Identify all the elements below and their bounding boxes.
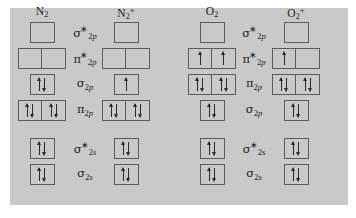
electron-arrow-down <box>308 77 313 92</box>
electron-arrows <box>121 167 131 182</box>
orbital-boxes-o2plus-sigma-2s <box>254 164 338 185</box>
orbital-box <box>295 74 320 95</box>
orbital-boxes-n2plus-sigma-star-2p <box>84 22 168 43</box>
mo-row-sigma-star-2p: σ∗2p <box>0 22 170 44</box>
orbital-boxes-n2plus-sigma-2s <box>84 164 168 185</box>
electron-arrows <box>282 51 287 66</box>
electron-arrows <box>37 141 47 156</box>
orbital-box <box>284 100 309 121</box>
orbital-box <box>114 164 139 185</box>
orbital-box <box>272 48 297 69</box>
electron-arrow-down <box>42 77 47 92</box>
species-charge-superscript: + <box>300 5 305 15</box>
orbital-box <box>200 164 225 185</box>
species-label-o2: O2 <box>170 5 254 19</box>
electron-arrow-up <box>221 51 226 66</box>
orbital-boxes-o2-sigma-2p <box>170 100 254 121</box>
electron-arrows <box>221 51 226 66</box>
electron-arrows <box>207 167 217 182</box>
orbital-box <box>41 48 66 69</box>
orbital-box <box>102 48 127 69</box>
electron-arrow-up <box>282 51 287 66</box>
mo-group-right: O2O2+σ∗2pπ∗2pπ2pσ2pσ∗2sσ2s <box>170 0 338 197</box>
electron-arrow-down <box>296 167 301 182</box>
orbital-box <box>30 22 55 43</box>
mo-row-sigma-star-2s: σ∗2s <box>0 138 170 160</box>
orbital-boxes-n2-pi-star-2p <box>0 48 84 69</box>
electron-arrows <box>37 167 47 182</box>
electron-arrow-down <box>42 141 47 156</box>
orbital-box <box>114 22 139 43</box>
electron-arrow-up <box>124 77 129 92</box>
electron-arrow-down <box>126 167 131 182</box>
orbital-boxes-o2-pi-2p <box>170 74 254 95</box>
electron-arrows <box>291 167 301 182</box>
mo-row-sigma-star-2p: σ∗2p <box>170 22 338 44</box>
species-label-n2: N2 <box>0 5 84 19</box>
orbital-box <box>125 48 150 69</box>
orbital-boxes-o2plus-pi-star-2p <box>254 48 338 69</box>
electron-arrow-down <box>224 77 229 92</box>
orbital-box <box>211 48 236 69</box>
mo-group-left: N2N2+σ∗2pπ∗2pσ2pπ2pσ∗2sσ2s <box>0 0 170 197</box>
electron-arrow-up <box>198 51 203 66</box>
orbital-boxes-o2-sigma-star-2p <box>170 22 254 43</box>
orbital-boxes-n2-sigma-star-2p <box>0 22 84 43</box>
mo-row-sigma-star-2s: σ∗2s <box>170 138 338 160</box>
electron-arrow-down <box>212 167 217 182</box>
orbital-boxes-o2plus-sigma-2p <box>254 100 338 121</box>
orbital-boxes-o2-sigma-2s <box>170 164 254 185</box>
mo-diagram-figure: N2N2+σ∗2pπ∗2pσ2pπ2pσ∗2sσ2sO2O2+σ∗2pπ∗2pπ… <box>0 0 356 218</box>
mo-row-sigma-2p: σ2p <box>170 100 338 122</box>
electron-arrow-down <box>54 103 59 118</box>
orbital-boxes-n2plus-pi-2p <box>84 100 168 121</box>
orbital-box <box>18 48 43 69</box>
electron-arrows <box>109 103 119 118</box>
orbital-box <box>114 74 139 95</box>
electron-arrows <box>207 103 217 118</box>
orbital-boxes-n2plus-sigma-star-2s <box>84 138 168 159</box>
electron-arrows <box>133 103 143 118</box>
orbital-box <box>200 138 225 159</box>
electron-arrow-down <box>296 103 301 118</box>
electron-arrows <box>195 77 205 92</box>
orbital-box <box>30 164 55 185</box>
orbital-boxes-o2plus-pi-2p <box>254 74 338 95</box>
orbital-box <box>188 48 213 69</box>
orbital-box <box>114 138 139 159</box>
orbital-box <box>272 74 297 95</box>
orbital-box <box>200 22 225 43</box>
species-label-o2plus: O2+ <box>254 5 338 21</box>
orbital-box <box>284 138 309 159</box>
electron-arrow-down <box>42 167 47 182</box>
mo-row-pi-2p: π2p <box>170 74 338 96</box>
electron-arrows <box>121 141 131 156</box>
orbital-box <box>30 138 55 159</box>
electron-arrow-down <box>138 103 143 118</box>
orbital-box <box>125 100 150 121</box>
electron-arrow-down <box>200 77 205 92</box>
species-element-symbol: N <box>36 5 45 17</box>
orbital-box <box>284 164 309 185</box>
orbital-box <box>284 22 309 43</box>
electron-arrows <box>198 51 203 66</box>
orbital-boxes-n2plus-pi-star-2p <box>84 48 168 69</box>
species-charge-superscript: + <box>130 5 135 15</box>
orbital-box <box>211 74 236 95</box>
electron-arrows <box>219 77 229 92</box>
electron-arrow-down <box>212 103 217 118</box>
species-element-symbol: N <box>117 7 126 19</box>
electron-arrows <box>279 77 289 92</box>
mo-row-sigma-2s: σ2s <box>170 164 338 186</box>
orbital-box <box>30 74 55 95</box>
orbital-boxes-o2plus-sigma-star-2p <box>254 22 338 43</box>
orbital-box <box>295 48 320 69</box>
orbital-boxes-n2plus-sigma-2p <box>84 74 168 95</box>
species-subscript: 2 <box>44 10 48 19</box>
species-element-symbol: O <box>206 5 215 17</box>
electron-arrows <box>124 77 129 92</box>
mo-row-pi-star-2p: π∗2p <box>0 48 170 70</box>
species-label-n2plus: N2+ <box>84 5 168 21</box>
electron-arrows <box>49 103 59 118</box>
orbital-boxes-o2-pi-star-2p <box>170 48 254 69</box>
